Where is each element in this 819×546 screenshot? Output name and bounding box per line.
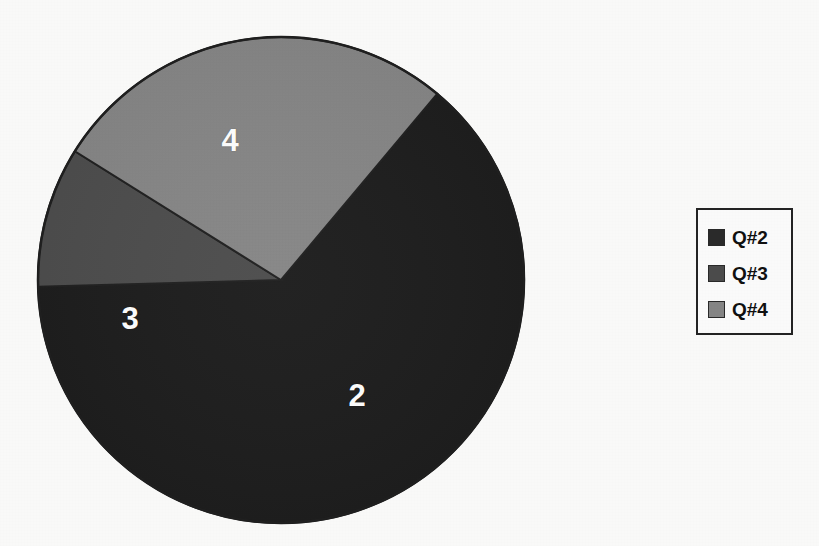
legend-item-q3[interactable]: Q#3 <box>708 255 791 291</box>
chart-legend: Q#2 Q#3 Q#4 <box>696 208 793 335</box>
pie-shading <box>38 37 524 523</box>
legend-swatch-q4 <box>708 301 725 318</box>
legend-label-q3: Q#3 <box>732 264 768 283</box>
legend-swatch-q2 <box>708 229 725 246</box>
legend-label-q4: Q#4 <box>732 300 768 319</box>
pie-slice-label-q4: 4 <box>221 125 238 156</box>
chart-canvas: 2 3 4 Q#2 Q#3 Q#4 <box>0 0 819 546</box>
legend-label-q2: Q#2 <box>732 228 768 247</box>
legend-swatch-q3 <box>708 265 725 282</box>
legend-item-q4[interactable]: Q#4 <box>708 291 791 327</box>
legend-item-q2[interactable]: Q#2 <box>708 219 791 255</box>
pie-slice-label-q3: 3 <box>121 303 138 334</box>
pie-slice-label-q2: 2 <box>348 380 365 411</box>
